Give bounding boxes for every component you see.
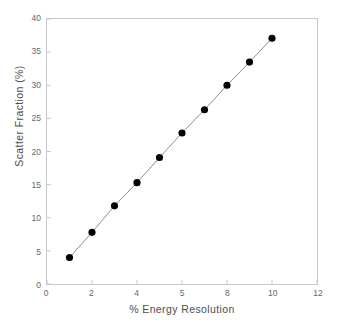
y-tick-label: 25 (32, 114, 41, 123)
data-point: 5, 19.1 (156, 154, 163, 161)
x-tick-label: 2 (89, 289, 94, 298)
plot-canvas: 1, 42, 7.83, 11.84, 15.35, 19.16, 22.87,… (47, 19, 317, 284)
x-axis-tick-labels: 024581012 (46, 289, 318, 301)
data-markers: 1, 42, 7.83, 11.84, 15.35, 19.16, 22.87,… (66, 35, 276, 261)
data-point: 7, 26.3 (201, 106, 208, 113)
data-point: 10, 37.1 (268, 35, 275, 42)
y-tick-label: 30 (32, 81, 41, 90)
chart-figure: 0510152025303540 Scatter Fraction (%) 1,… (0, 0, 341, 330)
data-point: 1, 4 (66, 254, 73, 261)
x-tick-label: 5 (180, 289, 185, 298)
y-tick-label: 20 (32, 147, 41, 156)
data-line (70, 38, 272, 257)
y-tick-label: 0 (36, 281, 41, 290)
y-tick-label: 15 (32, 181, 41, 190)
y-tick-label: 40 (32, 14, 41, 23)
plot-area: 1, 42, 7.83, 11.84, 15.35, 19.16, 22.87,… (46, 18, 318, 285)
y-tick-label: 35 (32, 47, 41, 56)
x-tick-label: 0 (44, 289, 49, 298)
x-tick-label: 8 (225, 289, 230, 298)
data-point: 9, 33.5 (246, 58, 253, 65)
y-tick-label: 10 (32, 214, 41, 223)
data-point: 3, 11.8 (111, 202, 118, 209)
data-point: 2, 7.8 (88, 229, 95, 236)
y-axis-title: Scatter Fraction (%) (13, 31, 25, 201)
data-point: 6, 22.8 (178, 129, 185, 136)
x-tick-label: 4 (134, 289, 139, 298)
x-tick-label: 10 (268, 289, 277, 298)
y-tick-label: 5 (36, 247, 41, 256)
tick-marks (47, 19, 317, 284)
x-axis-title: % Energy Resolution (46, 303, 318, 315)
x-tick-label: 12 (313, 289, 322, 298)
data-point: 8, 30 (223, 82, 230, 89)
data-point: 4, 15.3 (133, 179, 140, 186)
